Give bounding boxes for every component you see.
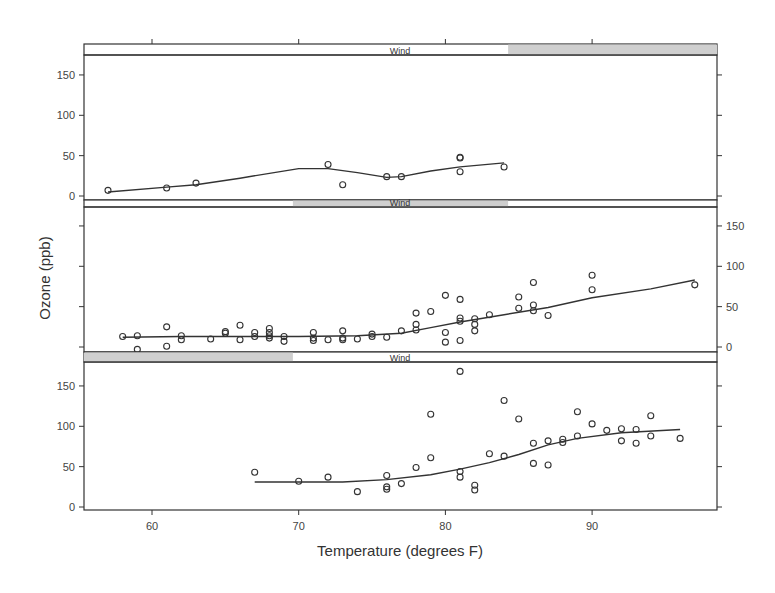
y-tick-label: 150	[57, 69, 75, 81]
data-point	[516, 305, 522, 311]
data-point	[457, 169, 463, 175]
data-point	[442, 339, 448, 345]
data-point	[442, 292, 448, 298]
strip-label: Wind	[390, 198, 411, 208]
x-tick-label: 80	[439, 520, 451, 532]
data-point	[164, 343, 170, 349]
data-point	[428, 308, 434, 314]
y-tick-label: 100	[726, 260, 744, 272]
data-point	[384, 334, 390, 340]
y-tick-label: 150	[726, 220, 744, 232]
x-axis: 60708090	[146, 39, 598, 532]
data-point	[545, 462, 551, 468]
y-tick-label: 0	[69, 190, 75, 202]
data-point	[574, 409, 580, 415]
data-point	[501, 164, 507, 170]
strip-shade-range	[84, 353, 293, 362]
data-point	[237, 337, 243, 343]
y-tick-label: 150	[57, 380, 75, 392]
panel-2: Wind050100150	[79, 198, 744, 354]
data-point	[618, 426, 624, 432]
data-point	[413, 464, 419, 470]
data-point	[692, 282, 698, 288]
plot-frame	[84, 362, 717, 510]
data-point	[164, 324, 170, 330]
panel-1: Wind050100150	[57, 44, 722, 202]
data-point	[501, 397, 507, 403]
data-point	[486, 451, 492, 457]
data-point	[428, 455, 434, 461]
data-point	[530, 440, 536, 446]
data-point	[178, 337, 184, 343]
data-point	[325, 337, 331, 343]
y-axis-title: Ozone (ppb)	[36, 236, 53, 319]
data-point	[428, 411, 434, 417]
data-point	[237, 322, 243, 328]
plot-frame	[84, 207, 717, 352]
y-tick-label: 100	[57, 420, 75, 432]
strip-shade-range	[508, 45, 717, 55]
smooth-line	[108, 163, 504, 192]
plot-frame	[84, 55, 717, 200]
smooth-line	[255, 430, 680, 483]
x-tick-label: 60	[146, 520, 158, 532]
data-point	[545, 438, 551, 444]
data-point	[120, 334, 126, 340]
y-tick-label: 50	[63, 150, 75, 162]
data-point	[354, 336, 360, 342]
y-tick-label: 50	[63, 461, 75, 473]
data-point	[604, 427, 610, 433]
panel-3: Wind050100150	[57, 352, 722, 513]
x-axis-title: Temperature (degrees F)	[317, 542, 483, 559]
data-point	[457, 338, 463, 344]
data-point	[354, 489, 360, 495]
y-tick-label: 0	[69, 501, 75, 513]
panels-group: Wind050100150Wind050100150Wind050100150	[57, 44, 745, 513]
data-point	[677, 435, 683, 441]
y-tick-label: 50	[726, 301, 738, 313]
data-point	[516, 416, 522, 422]
y-tick-label: 0	[726, 341, 732, 353]
data-point	[134, 333, 140, 339]
data-point	[105, 187, 111, 193]
data-point	[648, 433, 654, 439]
smooth-line	[123, 280, 695, 337]
data-point	[457, 368, 463, 374]
data-point	[340, 182, 346, 188]
data-point	[589, 287, 595, 293]
data-point	[545, 313, 551, 319]
data-point	[296, 478, 302, 484]
data-point	[413, 310, 419, 316]
data-point	[398, 481, 404, 487]
data-point	[516, 294, 522, 300]
data-point	[633, 440, 639, 446]
strip-label: Wind	[390, 353, 411, 363]
data-point	[589, 421, 595, 427]
data-point	[252, 469, 258, 475]
data-point	[442, 329, 448, 335]
data-point	[384, 473, 390, 479]
data-point	[618, 438, 624, 444]
data-point	[530, 279, 536, 285]
data-point	[325, 162, 331, 168]
x-tick-label: 90	[586, 520, 598, 532]
coplot-chart: Wind050100150Wind050100150Wind050100150 …	[0, 0, 775, 593]
data-point	[457, 296, 463, 302]
y-tick-label: 100	[57, 109, 75, 121]
strip-label: Wind	[390, 46, 411, 56]
data-point	[589, 272, 595, 278]
data-point	[648, 413, 654, 419]
data-point	[325, 474, 331, 480]
data-point	[472, 328, 478, 334]
data-point	[340, 328, 346, 334]
data-point	[530, 460, 536, 466]
x-tick-label: 70	[293, 520, 305, 532]
